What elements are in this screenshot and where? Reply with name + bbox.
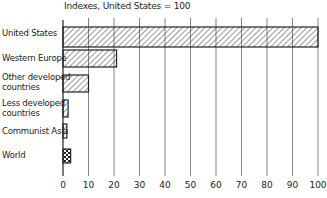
- bar: [63, 27, 318, 47]
- x-tick-label: 10: [83, 180, 94, 190]
- x-tick-label: 40: [159, 180, 170, 190]
- bar: [63, 50, 117, 67]
- bar: [63, 75, 89, 92]
- x-tick-label: 60: [210, 180, 221, 190]
- x-tick-label: 100: [309, 180, 326, 190]
- bar: [63, 124, 67, 138]
- x-tick-label: 70: [236, 180, 247, 190]
- x-tick-label: 90: [287, 180, 298, 190]
- x-tick-label: 50: [185, 180, 196, 190]
- x-tick-label: 20: [108, 180, 119, 190]
- bar: [63, 149, 71, 163]
- x-tick-label: 80: [261, 180, 272, 190]
- bar: [63, 100, 68, 117]
- x-tick-label: 30: [134, 180, 145, 190]
- x-tick-label: 0: [60, 180, 66, 190]
